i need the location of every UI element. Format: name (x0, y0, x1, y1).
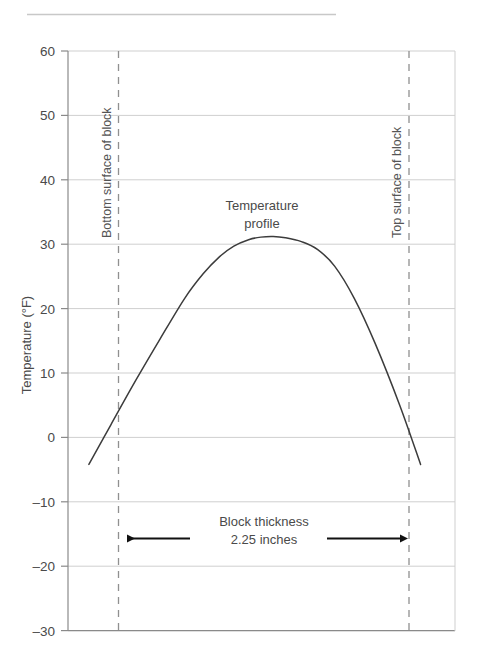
y-tick-labels: 60 50 40 30 20 10 0 –10 –20 –30 (32, 44, 55, 639)
temperature-profile-chart: 60 50 40 30 20 10 0 –10 –20 –30 Temperat… (0, 0, 478, 664)
y-tick-label-minus30: –30 (32, 624, 55, 639)
y-axis-title: Temperature (°F) (19, 296, 34, 394)
y-tick-label-40: 40 (40, 173, 55, 188)
y-tick-marks (61, 51, 68, 631)
temperature-profile-label-line1: Temperature (226, 198, 299, 213)
bottom-surface-label: Bottom surface of block (100, 107, 114, 238)
block-thickness-label-line1: Block thickness (219, 514, 309, 529)
y-tick-label-20: 20 (40, 302, 55, 317)
block-thickness-label-line2: 2.25 inches (231, 532, 298, 547)
y-tick-label-0: 0 (47, 430, 55, 445)
y-tick-label-60: 60 (40, 44, 55, 59)
figure-root: 60 50 40 30 20 10 0 –10 –20 –30 Temperat… (0, 0, 478, 664)
y-tick-label-30: 30 (40, 237, 55, 252)
temperature-profile-label-line2: profile (244, 216, 279, 231)
y-tick-label-50: 50 (40, 108, 55, 123)
y-tick-label-minus10: –10 (32, 495, 55, 510)
y-tick-label-10: 10 (40, 366, 55, 381)
y-tick-label-minus20: –20 (32, 559, 55, 574)
top-surface-label: Top surface of block (390, 126, 404, 238)
